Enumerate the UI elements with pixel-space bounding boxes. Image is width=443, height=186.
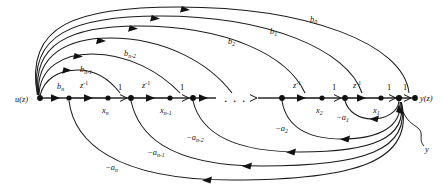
feedback-gain-labels: −a1 −a2 −an-2 −an-1 −an (106, 113, 349, 173)
gain-label-an: −an (106, 163, 118, 173)
gain-label-bn-2: bn-2 (124, 49, 136, 59)
signal-flow-graph-figure: u(z) y(z) z-1 z-1 z-1 z-1 xn xn-1 x2 x1 (0, 0, 443, 186)
unity-gain-label-xn-1: 1 (180, 83, 184, 92)
gain-label-b1: b1 (270, 27, 277, 37)
delay-label-n-1: z-1 (141, 80, 150, 90)
gain-label-bn-1: bn-1 (80, 65, 92, 75)
output-callout-label: y (424, 145, 429, 154)
label-layer: u(z) y(z) z-1 z-1 z-1 z-1 xn xn-1 x2 x1 (0, 0, 443, 186)
state-label-x1: x1 (372, 106, 380, 116)
ellipsis-dot-3: . (242, 90, 248, 105)
output-terminal-label: y(z) (419, 94, 433, 103)
ellipsis-dot-2: . (233, 90, 239, 105)
gain-label-b0: b0 (310, 15, 317, 25)
gain-label-a1: −a1 (337, 113, 349, 123)
state-label-xn-1: xn-1 (159, 106, 172, 116)
ellipsis-dot-1: . (224, 90, 230, 105)
gain-label-an-2: −an-2 (187, 133, 204, 143)
input-terminal-label: u(z) (15, 95, 28, 104)
delay-label-2: z-1 (292, 80, 301, 90)
state-label-x2: x2 (315, 106, 323, 116)
state-label-xn: xn (101, 106, 109, 116)
delay-label-n: z-1 (79, 80, 88, 90)
section-ellipsis: . . . (224, 90, 248, 105)
unity-gain-label-out: 1 (403, 83, 407, 92)
unity-gain-labels: 1 1 1 1 1 (118, 83, 407, 92)
unity-gain-label-x1: 1 (387, 83, 391, 92)
gain-label-a2: −a2 (276, 124, 288, 134)
unity-gain-label-x2: 1 (332, 83, 336, 92)
gain-label-an-1: −an-1 (148, 148, 165, 158)
gain-label-b2: b2 (228, 37, 235, 47)
gain-label-bn: bn (57, 82, 64, 92)
feedforward-gain-labels: bn bn-1 bn-2 b2 b1 b0 (57, 15, 317, 92)
delay-label-1: z-1 (352, 80, 361, 90)
unity-gain-label-xn: 1 (118, 83, 122, 92)
